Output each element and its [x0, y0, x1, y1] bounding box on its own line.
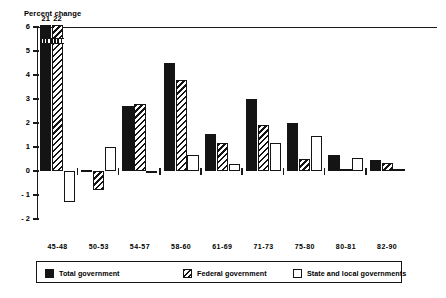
- y-axis-tick-label: 4: [10, 71, 30, 79]
- y-axis-tick: [33, 170, 39, 171]
- legend-item: State and local governments: [293, 267, 406, 279]
- bar-54-57-federal-government: [134, 104, 145, 171]
- bar-58-60-federal-government: [176, 80, 187, 171]
- y-axis-tick-label: 5: [10, 47, 30, 55]
- x-axis-tick-label: 82-90: [363, 243, 411, 250]
- y-axis-tick-label: 1: [10, 143, 30, 151]
- y-axis-tick-label: 2: [10, 119, 30, 127]
- bar-54-57-total-government: [122, 106, 133, 171]
- y-axis-tick-label: 3: [10, 95, 30, 103]
- group-separator-tick: [118, 168, 120, 175]
- bar-50-53-total-government: [81, 170, 92, 172]
- open-white-swatch: [293, 269, 302, 278]
- clipped-bar-value-label: 22: [49, 15, 66, 23]
- bar-75-80-federal-government: [299, 159, 310, 171]
- y-axis-tick-label: - 1: [6, 191, 30, 199]
- hatched-swatch: [183, 269, 192, 278]
- group-separator-tick: [283, 168, 285, 175]
- group-separator-tick: [159, 168, 161, 175]
- y-axis-tick: [33, 218, 39, 219]
- bar-82-90-state-and-local-governments: [393, 169, 404, 171]
- group-separator-tick: [200, 168, 202, 175]
- bar-54-57-state-and-local-governments: [146, 171, 157, 173]
- group-separator-tick: [324, 168, 326, 175]
- legend-item: Total government: [45, 267, 120, 279]
- y-axis-tick: [33, 74, 39, 75]
- bar-71-73-federal-government: [258, 125, 269, 171]
- bar-61-69-state-and-local-governments: [229, 164, 240, 171]
- y-axis-tick: [33, 146, 39, 147]
- legend-label: Total government: [59, 269, 120, 278]
- bar-82-90-total-government: [370, 160, 381, 171]
- plot-area: 6543210- 1- 2 2122: [37, 27, 437, 219]
- bar-80-81-total-government: [328, 155, 339, 171]
- y-axis-tick: [33, 98, 39, 99]
- axis-break-mark: [40, 38, 52, 44]
- bar-45-48-state-and-local-governments: [64, 171, 75, 202]
- zero-baseline: [37, 27, 437, 28]
- bar-50-53-state-and-local-governments: [105, 147, 116, 171]
- bar-chart-figure: Percent change 6543210- 1- 2 2122 45-485…: [0, 0, 446, 298]
- legend-label: State and local governments: [307, 269, 406, 278]
- group-separator-tick: [77, 168, 79, 175]
- bar-61-69-federal-government: [217, 143, 228, 171]
- y-axis-tick: [33, 26, 39, 27]
- bar-45-48-federal-government: [52, 25, 63, 171]
- y-axis-tick: [33, 122, 39, 123]
- group-separator-tick: [365, 168, 367, 175]
- legend-item: Federal government: [183, 267, 267, 279]
- bar-71-73-total-government: [246, 99, 257, 171]
- axis-break-mark: [51, 38, 63, 44]
- y-axis-tick-label: - 2: [6, 215, 30, 223]
- bar-45-48-total-government: [40, 25, 51, 171]
- bar-61-69-total-government: [205, 134, 216, 171]
- y-axis-tick: [33, 50, 39, 51]
- bar-58-60-state-and-local-governments: [187, 155, 198, 171]
- bar-50-53-federal-government: [93, 171, 104, 190]
- bar-71-73-state-and-local-governments: [270, 143, 281, 171]
- y-axis-tick-label: 6: [10, 23, 30, 31]
- bar-80-81-state-and-local-governments: [352, 158, 363, 171]
- group-separator-tick: [241, 168, 243, 175]
- bar-58-60-total-government: [164, 63, 175, 171]
- chart-legend: Total governmentFederal governmentState …: [36, 261, 402, 283]
- bar-82-90-federal-government: [382, 163, 393, 171]
- y-axis-tick-label: 0: [10, 167, 30, 175]
- legend-label: Federal government: [197, 269, 267, 278]
- solid-black-swatch: [45, 269, 54, 278]
- y-axis-tick: [33, 194, 39, 195]
- bar-75-80-state-and-local-governments: [311, 136, 322, 171]
- bar-75-80-total-government: [287, 123, 298, 171]
- bar-80-81-federal-government: [340, 169, 351, 171]
